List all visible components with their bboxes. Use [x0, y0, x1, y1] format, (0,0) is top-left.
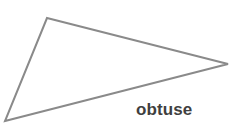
triangle-shape — [5, 18, 228, 121]
obtuse-triangle-figure: obtuse — [0, 0, 230, 136]
triangle-canvas — [0, 0, 230, 136]
obtuse-label: obtuse — [136, 100, 192, 119]
